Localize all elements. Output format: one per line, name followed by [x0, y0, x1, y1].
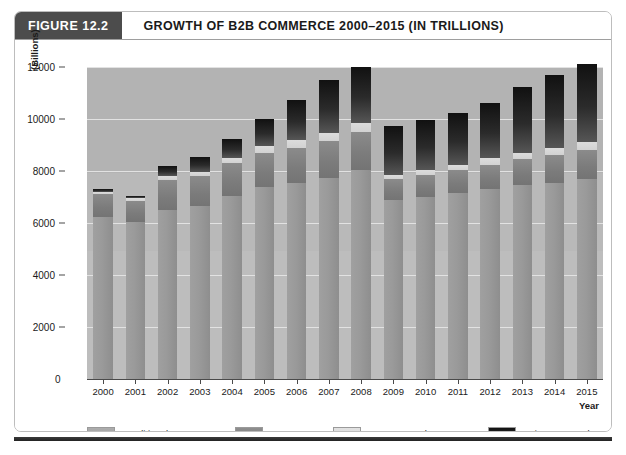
x-axis-tick-mark: [200, 379, 201, 384]
bar-segment[interactable]: [480, 189, 499, 379]
bar-segment[interactable]: [255, 119, 274, 146]
bar-segment[interactable]: [158, 210, 177, 379]
bar-segment[interactable]: [222, 158, 241, 163]
bar-segment[interactable]: [93, 217, 112, 380]
bar-segment[interactable]: [93, 189, 112, 192]
bar-group[interactable]: [126, 196, 145, 379]
bar-segment[interactable]: [448, 113, 467, 165]
bar-segment[interactable]: [545, 75, 564, 148]
bar-segment[interactable]: [93, 194, 112, 216]
bar-segment[interactable]: [384, 126, 403, 175]
bar-segment[interactable]: [416, 170, 435, 175]
bar-segment[interactable]: [158, 176, 177, 180]
bar-segment[interactable]: [319, 141, 338, 177]
bar-segment[interactable]: [545, 148, 564, 156]
bar-segment[interactable]: [190, 206, 209, 379]
bar-segment[interactable]: [448, 170, 467, 193]
bar-segment[interactable]: [545, 183, 564, 379]
legend-swatch: [87, 427, 115, 433]
legend-item[interactable]: EDI: [235, 427, 288, 433]
bar-segment[interactable]: [416, 197, 435, 379]
bar-segment[interactable]: [126, 198, 145, 201]
y-axis-tick-label: 12000: [27, 62, 55, 73]
bar-segment[interactable]: [480, 158, 499, 165]
bar-segment[interactable]: [513, 87, 532, 153]
bar-segment[interactable]: [126, 196, 145, 199]
bar-segment[interactable]: [287, 183, 306, 379]
bar-segment[interactable]: [126, 201, 145, 222]
bar-segment[interactable]: [287, 140, 306, 148]
bar-segment[interactable]: [480, 165, 499, 190]
bar-segment[interactable]: [222, 163, 241, 196]
legend-item[interactable]: Traditional B2B: [87, 427, 189, 433]
bar-segment[interactable]: [319, 178, 338, 380]
bar-segment[interactable]: [384, 200, 403, 379]
bars-layer: [87, 67, 603, 379]
y-axis-tick-mark: [59, 67, 65, 68]
bar-segment[interactable]: [351, 132, 370, 170]
bar-segment[interactable]: [255, 187, 274, 379]
bar-segment[interactable]: [384, 175, 403, 179]
x-axis-tick-mark: [555, 379, 556, 384]
y-axis-tick-mark: [59, 119, 65, 120]
bar-group[interactable]: [287, 100, 306, 380]
bar-segment[interactable]: [513, 153, 532, 160]
bar-segment[interactable]: [255, 146, 274, 153]
bar-group[interactable]: [577, 64, 596, 379]
bar-group[interactable]: [255, 119, 274, 379]
x-axis-tick-label: 2010: [415, 386, 436, 397]
bar-group[interactable]: [545, 75, 564, 379]
bar-segment[interactable]: [319, 80, 338, 133]
bar-segment[interactable]: [513, 185, 532, 379]
bar-group[interactable]: [319, 80, 338, 379]
bar-segment[interactable]: [384, 179, 403, 200]
legend-item[interactable]: Private Networks: [488, 427, 597, 433]
y-axis-tick-label: 10000: [27, 114, 55, 125]
x-axis-tick-label: 2015: [576, 386, 597, 397]
bar-segment[interactable]: [513, 159, 532, 185]
bar-segment[interactable]: [190, 172, 209, 176]
bar-group[interactable]: [222, 139, 241, 380]
legend-item[interactable]: B2B Net Markets: [333, 427, 442, 433]
x-axis-ticks: 2000200120022003200420052006200720082009…: [87, 379, 603, 403]
bar-group[interactable]: [93, 189, 112, 379]
bar-segment[interactable]: [158, 180, 177, 210]
bar-segment[interactable]: [126, 222, 145, 379]
bar-group[interactable]: [158, 166, 177, 379]
bar-segment[interactable]: [416, 120, 435, 169]
chart-body: (Billions) 20004000600080001000012000 0 …: [15, 40, 611, 431]
bar-segment[interactable]: [190, 176, 209, 206]
bar-group[interactable]: [384, 126, 403, 380]
bar-segment[interactable]: [319, 133, 338, 141]
bar-segment[interactable]: [577, 142, 596, 150]
bar-group[interactable]: [448, 113, 467, 380]
bar-segment[interactable]: [448, 193, 467, 379]
x-axis-tick-mark: [103, 379, 104, 384]
bottom-rule: [14, 437, 612, 441]
bar-segment[interactable]: [351, 170, 370, 379]
bar-segment[interactable]: [222, 196, 241, 379]
bar-segment[interactable]: [351, 123, 370, 132]
bar-segment[interactable]: [287, 100, 306, 140]
bar-segment[interactable]: [448, 165, 467, 170]
bar-segment[interactable]: [287, 148, 306, 183]
bar-segment[interactable]: [93, 192, 112, 195]
bar-group[interactable]: [513, 87, 532, 380]
bar-segment[interactable]: [577, 179, 596, 379]
bar-group[interactable]: [480, 103, 499, 379]
bar-segment[interactable]: [158, 166, 177, 176]
bar-segment[interactable]: [416, 175, 435, 197]
bar-segment[interactable]: [545, 155, 564, 182]
bar-segment[interactable]: [577, 64, 596, 142]
bar-group[interactable]: [416, 120, 435, 379]
bar-segment[interactable]: [480, 103, 499, 158]
bar-segment[interactable]: [222, 139, 241, 159]
bar-segment[interactable]: [577, 150, 596, 179]
bar-group[interactable]: [190, 157, 209, 379]
x-axis-tick-mark: [393, 379, 394, 384]
y-axis-tick-mark: [59, 327, 65, 328]
bar-segment[interactable]: [351, 67, 370, 123]
bar-segment[interactable]: [190, 157, 209, 173]
bar-segment[interactable]: [255, 153, 274, 187]
bar-group[interactable]: [351, 67, 370, 379]
